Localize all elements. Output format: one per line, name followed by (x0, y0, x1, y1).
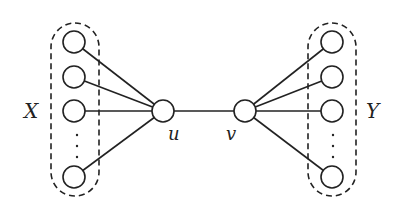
node-x2 (63, 66, 85, 88)
node-xn (63, 166, 85, 188)
ellipsis-x (76, 134, 78, 158)
edge-x2-u (74, 77, 163, 111)
node-x1 (63, 31, 85, 53)
edge-v-y1 (245, 42, 332, 111)
edge-xn-u (74, 111, 163, 177)
node-x3 (63, 100, 85, 122)
node-yn (321, 166, 343, 188)
graph-diagram: X Y u v (0, 0, 403, 209)
node-u-label: u (168, 123, 180, 144)
edge-x1-u (74, 42, 163, 111)
ellipsis-y (332, 134, 334, 158)
set-x-label: X (22, 99, 39, 123)
node-v-label: v (226, 123, 236, 144)
node-y3 (321, 100, 343, 122)
node-y1 (321, 31, 343, 53)
edge-v-y2 (245, 77, 332, 111)
edge-v-yn (245, 111, 332, 177)
set-y-label: Y (366, 99, 381, 123)
node-v (234, 100, 256, 122)
node-u (152, 100, 174, 122)
node-y2 (321, 66, 343, 88)
